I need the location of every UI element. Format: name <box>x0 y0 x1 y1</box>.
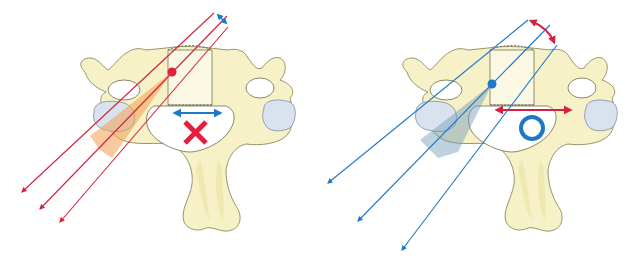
figure <box>0 0 625 258</box>
entry-point-left <box>168 68 177 77</box>
entry-point-right <box>488 80 497 89</box>
left-panel <box>22 13 295 231</box>
angle-arrow-right <box>531 21 554 42</box>
right-panel <box>328 20 617 250</box>
